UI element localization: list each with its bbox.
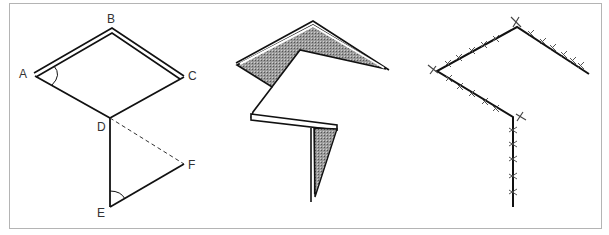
label-b: B [107,12,115,26]
label-e: E [97,206,105,220]
label-f: F [188,158,195,172]
diagram-figure: B A C D F E [0,0,609,235]
label-d: D [97,120,106,134]
label-c: C [188,69,197,83]
label-a: A [19,67,27,81]
